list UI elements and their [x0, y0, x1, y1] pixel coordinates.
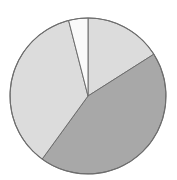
pie-chart-svg — [0, 0, 177, 180]
pie-slice-group — [10, 18, 166, 174]
pie-chart-figure — [0, 0, 177, 180]
